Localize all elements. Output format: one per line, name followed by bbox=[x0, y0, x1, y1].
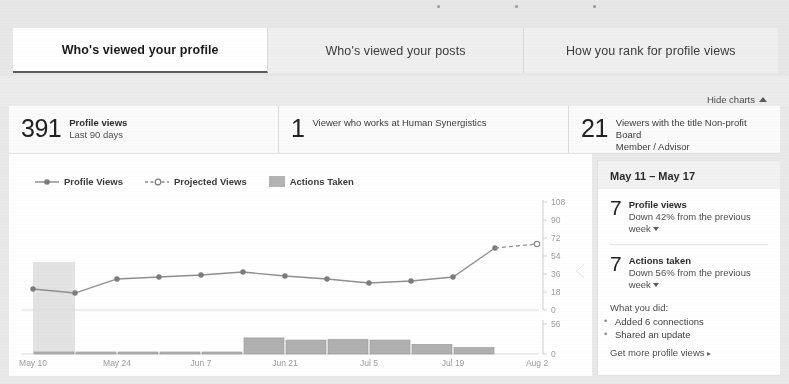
bar[interactable] bbox=[76, 352, 116, 354]
bar[interactable] bbox=[118, 352, 158, 354]
hide-charts-label: Hide charts bbox=[707, 94, 755, 105]
gutter-dot bbox=[437, 5, 440, 8]
tab-label: Who's viewed your posts bbox=[325, 44, 465, 58]
axis-tick-label: 0 bbox=[551, 305, 556, 315]
sidebar-pointer-chevron-icon bbox=[577, 264, 585, 278]
data-point[interactable] bbox=[534, 241, 539, 246]
selected-week-highlight bbox=[33, 262, 75, 354]
week-stat-actions-taken: 7 Actions taken Down 56% from the previo… bbox=[598, 245, 780, 297]
week-stat-title: Actions taken bbox=[629, 255, 768, 267]
legend-label: Profile Views bbox=[64, 176, 123, 187]
x-axis-tick-label: May 24 bbox=[103, 358, 131, 368]
what-you-did-item: Added 6 connections bbox=[604, 315, 780, 328]
week-stat-number: 7 bbox=[610, 198, 622, 235]
data-point[interactable] bbox=[30, 286, 35, 291]
tab-whos-viewed-your-posts[interactable]: Who's viewed your posts bbox=[268, 28, 523, 73]
gutter-dot bbox=[515, 5, 518, 8]
profile-analytics-page: Who's viewed your profile Who's viewed y… bbox=[0, 0, 789, 384]
bar[interactable] bbox=[34, 352, 74, 354]
stat-profile-views: 391 Profile views Last 90 days bbox=[9, 106, 279, 153]
caret-down-icon[interactable] bbox=[653, 283, 659, 287]
bar[interactable] bbox=[370, 340, 410, 354]
axis-tick-label: 54 bbox=[551, 251, 561, 261]
bar[interactable] bbox=[412, 344, 452, 354]
stat-subtitle: Member / Advisor bbox=[616, 141, 770, 153]
stat-title: Viewer who works at Human Synergistics bbox=[312, 117, 486, 129]
axis-tick-label: 90 bbox=[551, 215, 561, 225]
get-more-profile-views-link[interactable]: Get more profile views ▸ bbox=[598, 341, 780, 358]
caret-down-icon[interactable] bbox=[653, 227, 659, 231]
axis-tick-label: 0 bbox=[551, 349, 556, 359]
data-point[interactable] bbox=[156, 274, 161, 279]
x-axis-tick-label: Aug 2 bbox=[526, 358, 548, 368]
solid-line-dot-icon bbox=[35, 177, 59, 187]
chart-canvas: 01836547290108056May 10May 24Jun 7Jun 21… bbox=[9, 194, 592, 376]
x-axis-tick-label: Jul 19 bbox=[442, 358, 465, 368]
tab-bar: Who's viewed your profile Who's viewed y… bbox=[0, 26, 789, 76]
what-you-did-list: Added 6 connectionsShared an update bbox=[598, 314, 780, 341]
what-you-did-label: What you did: bbox=[598, 297, 780, 314]
dashed-line-circle-icon bbox=[145, 177, 169, 187]
x-axis-tick-label: Jun 21 bbox=[272, 358, 298, 368]
axis-tick-label: 18 bbox=[551, 287, 561, 297]
what-you-did-item: Shared an update bbox=[604, 328, 780, 341]
x-axis-tick-label: May 10 bbox=[19, 358, 47, 368]
week-stat-subtitle[interactable]: Down 56% from the previous week bbox=[629, 267, 768, 291]
top-gutter bbox=[0, 0, 789, 26]
data-point[interactable] bbox=[114, 276, 119, 281]
week-detail-card: May 11 – May 17 7 Profile views Down 42%… bbox=[597, 160, 780, 376]
bar[interactable] bbox=[202, 352, 242, 354]
arrow-right-icon: ▸ bbox=[707, 349, 711, 358]
axis-tick-label: 108 bbox=[551, 197, 565, 207]
axis-tick-label: 72 bbox=[551, 233, 561, 243]
data-point[interactable] bbox=[450, 274, 455, 279]
legend-item-profile-views: Profile Views bbox=[35, 176, 123, 187]
gutter-dot bbox=[593, 5, 596, 8]
x-axis-tick-label: Jul 5 bbox=[360, 358, 378, 368]
bar[interactable] bbox=[328, 340, 368, 354]
square-swatch-icon bbox=[269, 176, 285, 187]
summary-stats-bar: 391 Profile views Last 90 days 1 Viewer … bbox=[9, 106, 780, 154]
bar[interactable] bbox=[286, 340, 326, 354]
series-line-projected-views bbox=[495, 244, 537, 248]
week-stat-subtitle-text: Down 56% from the previous week bbox=[629, 267, 751, 290]
stat-viewer-company: 1 Viewer who works at Human Synergistics bbox=[279, 106, 569, 153]
cta-label: Get more profile views bbox=[610, 347, 705, 358]
week-stat-number: 7 bbox=[610, 254, 622, 291]
stat-number: 1 bbox=[291, 114, 304, 142]
data-point[interactable] bbox=[324, 276, 329, 281]
data-point[interactable] bbox=[366, 280, 371, 285]
week-stat-subtitle-text: Down 42% from the previous week bbox=[629, 211, 751, 234]
stat-viewer-title: 21 Viewers with the title Non-profit Boa… bbox=[569, 106, 780, 153]
data-point[interactable] bbox=[198, 272, 203, 277]
hide-charts-button[interactable]: Hide charts bbox=[707, 94, 767, 105]
data-point[interactable] bbox=[408, 278, 413, 283]
chart-legend: Profile Views Projected Views Actions Ta… bbox=[35, 176, 354, 187]
stat-subtitle: Last 90 days bbox=[69, 129, 127, 141]
tab-how-you-rank[interactable]: How you rank for profile views bbox=[524, 28, 778, 73]
week-stat-subtitle[interactable]: Down 42% from the previous week bbox=[629, 211, 768, 235]
analytics-chart-panel: Profile Views Projected Views Actions Ta… bbox=[9, 154, 592, 376]
legend-label: Actions Taken bbox=[290, 176, 354, 187]
tab-label: How you rank for profile views bbox=[566, 44, 736, 58]
date-range-header: May 11 – May 17 bbox=[598, 161, 780, 189]
stat-title: Viewers with the title Non-profit Board bbox=[616, 117, 770, 141]
legend-item-actions-taken: Actions Taken bbox=[269, 176, 354, 187]
data-point[interactable] bbox=[240, 269, 245, 274]
data-point[interactable] bbox=[282, 273, 287, 278]
bar[interactable] bbox=[454, 348, 494, 354]
week-stat-title: Profile views bbox=[629, 199, 768, 211]
bar[interactable] bbox=[160, 352, 200, 354]
stat-title: Profile views bbox=[69, 117, 127, 129]
legend-item-projected-views: Projected Views bbox=[145, 176, 247, 187]
stat-number: 391 bbox=[21, 114, 61, 142]
axis-tick-label: 56 bbox=[551, 319, 561, 329]
chevron-up-icon bbox=[759, 97, 767, 102]
bar[interactable] bbox=[244, 338, 284, 354]
series-line-profile-views bbox=[33, 248, 495, 293]
tab-whos-viewed-your-profile[interactable]: Who's viewed your profile bbox=[13, 28, 268, 73]
tab-label: Who's viewed your profile bbox=[62, 43, 219, 57]
legend-label: Projected Views bbox=[174, 176, 247, 187]
data-point[interactable] bbox=[72, 290, 77, 295]
axis-tick-label: 36 bbox=[551, 269, 561, 279]
